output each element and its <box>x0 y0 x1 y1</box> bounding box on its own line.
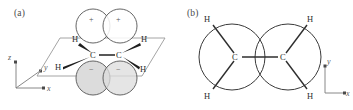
panel-b-bond-top-right <box>286 25 307 53</box>
panel-a-group: z y x − − + + C C <box>7 9 165 95</box>
panel-b-hydrogen-bottom-left-label: H <box>204 91 210 101</box>
panel-b-axis-label-y: y <box>326 57 331 66</box>
panel-b-carbon-right-label: C <box>280 52 286 62</box>
p-lobe-top-right-sign: + <box>116 15 121 24</box>
figure-svg: z y x − − + + C C <box>0 0 353 110</box>
panel-b-axes: y x <box>324 57 351 98</box>
panel-b-bond-bottom-left <box>213 61 234 89</box>
axis-label-z: z <box>7 53 12 62</box>
axis-z-tip <box>14 61 17 64</box>
panel-a-hydrogen-lower-right-label: H <box>140 64 146 74</box>
bond-wedge-upper-left <box>78 43 92 53</box>
panel-b-hydrogen-top-right-label: H <box>307 14 313 24</box>
panel-a-carbon-right-label: C <box>116 50 122 60</box>
panel-a-axes: z y x <box>7 53 51 93</box>
p-lobe-top-left-sign: + <box>89 15 94 24</box>
axis-x-tip <box>42 87 45 90</box>
panel-b-bond-top-left <box>213 25 234 53</box>
panel-b-hydrogen-top-left-label: H <box>204 14 210 24</box>
panel-a-hydrogen-upper-left-label: H <box>72 34 78 44</box>
panel-a-hydrogen-lower-left-label: H <box>55 62 61 72</box>
panel-b-carbon-left-label: C <box>232 52 238 62</box>
panel-b-axis-label-x: x <box>345 89 350 98</box>
panel-b-bond-bottom-right <box>286 61 307 89</box>
panel-a-carbon-left-label: C <box>90 50 96 60</box>
bond-wedge-upper-right <box>122 43 141 53</box>
panel-a-hydrogen-upper-right-label: H <box>141 34 147 44</box>
panel-b-hydrogen-bottom-right-label: H <box>307 91 313 101</box>
p-lobe-bottom-left-sign: − <box>89 65 94 74</box>
panel-b-group: C C H H H H y x <box>199 14 350 101</box>
axis-label-x: x <box>46 84 51 93</box>
axis-y-line <box>16 71 40 88</box>
figure-canvas: (a) (b) z y x − − <box>0 0 353 110</box>
p-lobe-bottom-right-sign: − <box>116 65 121 74</box>
